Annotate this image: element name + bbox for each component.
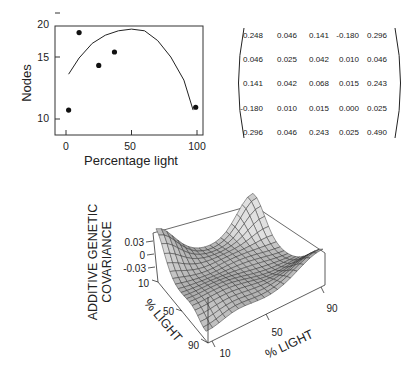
x-axis-title: Percentage light — [84, 153, 178, 168]
figure: 20 15 10 0 50 100 Nodes Percentage light… — [0, 0, 414, 370]
matrix-cell: 0.296 — [367, 31, 388, 40]
matrix-cell: 0.025 — [339, 128, 360, 137]
bottom-tick-label-50: 50 — [271, 327, 283, 338]
left-axis-title: % LIGHT — [141, 296, 185, 345]
matrix-cell: 0.046 — [367, 55, 388, 64]
matrix-cell: -0.180 — [240, 104, 263, 113]
bottom-tick-label-90: 90 — [326, 303, 338, 314]
matrix-cell: 0.046 — [277, 128, 298, 137]
z-tick-label-0.03: 0.03 — [125, 237, 145, 248]
matrix-cell: 0.010 — [339, 55, 360, 64]
nodes-vs-light-plot: 20 15 10 0 50 100 Nodes Percentage light — [19, 13, 206, 168]
matrix-cell: 0.025 — [367, 104, 388, 113]
y-axis-title: Nodes — [19, 64, 34, 102]
matrix-cell: 0.141 — [243, 79, 264, 88]
data-point — [96, 63, 101, 68]
matrix-cell: 0.141 — [309, 31, 330, 40]
data-point — [77, 30, 82, 35]
x-tick-label-0: 0 — [63, 140, 69, 152]
matrix-cell: 0.068 — [309, 79, 330, 88]
matrix-cell: -0.180 — [336, 31, 359, 40]
z-tick-label-0: 0 — [139, 250, 145, 261]
data-point — [66, 107, 71, 112]
y-tick-label-15: 15 — [37, 51, 49, 63]
matrix-cell: 0.015 — [309, 104, 330, 113]
matrix-cell: 0.046 — [243, 55, 264, 64]
right-bracket — [395, 28, 401, 138]
matrix-cell: 0.015 — [339, 79, 360, 88]
x-tick-label-100: 100 — [188, 140, 206, 152]
matrix-cell: 0.248 — [243, 31, 264, 40]
y-tick-label-20: 20 — [37, 18, 49, 30]
data-point — [193, 105, 198, 110]
matrix-cell: 0.243 — [309, 128, 330, 137]
x-axis-ticks — [66, 130, 197, 135]
plot-frame — [55, 26, 203, 135]
matrix-cell: 0.243 — [367, 79, 388, 88]
matrix-cell: 0.010 — [277, 104, 298, 113]
matrix-cell: 0.042 — [277, 79, 298, 88]
left-tick-label-90: 90 — [188, 340, 200, 351]
z-axis-ticks — [146, 241, 155, 268]
y-tick-label-10: 10 — [37, 112, 49, 124]
bottom-tick-label-10: 10 — [219, 348, 231, 359]
x-tick-label-50: 50 — [124, 140, 136, 152]
matrix-cells: 0.2480.0460.141-0.1800.2960.0460.0250.04… — [240, 31, 387, 137]
z-axis-title-line1: ADDITIVE GENETIC — [86, 204, 100, 321]
data-point — [112, 49, 117, 54]
fitted-curve — [69, 29, 194, 110]
covariance-surface-plot: ADDITIVE GENETIC COVARIANCE 0.03 0 -0.03 — [86, 193, 338, 361]
z-tick-label-neg0.03: -0.03 — [123, 263, 146, 274]
matrix-cell: 0.042 — [309, 55, 330, 64]
matrix-cell: 0.000 — [339, 104, 360, 113]
covariance-matrix: 0.2480.0460.141-0.1800.2960.0460.0250.04… — [239, 28, 401, 138]
matrix-cell: 0.046 — [277, 31, 298, 40]
z-axis-title-line2: COVARIANCE — [100, 221, 114, 303]
y-axis-ticks — [55, 13, 60, 119]
matrix-cell: 0.296 — [243, 128, 264, 137]
matrix-cell: 0.025 — [277, 55, 298, 64]
left-tick-label-10: 10 — [138, 278, 150, 289]
matrix-cell: 0.490 — [367, 128, 388, 137]
